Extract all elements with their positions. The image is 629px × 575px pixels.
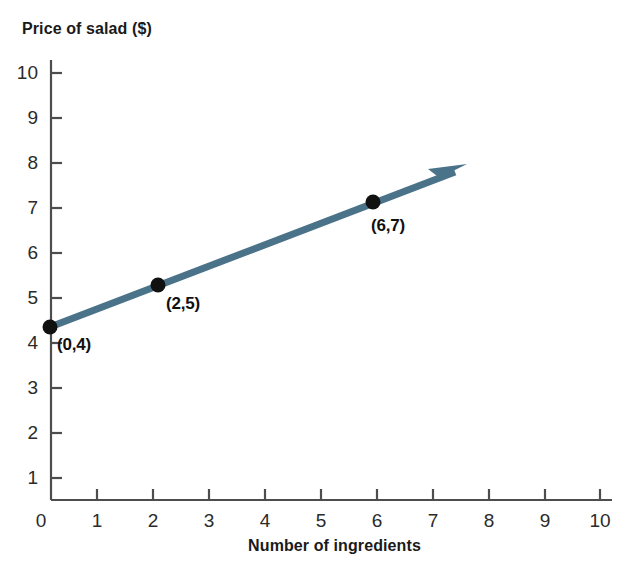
y-tick-label-7: 7 bbox=[4, 197, 38, 219]
y-tick-label-4: 4 bbox=[4, 332, 38, 354]
x-tick-label-5: 5 bbox=[301, 510, 341, 532]
x-tick-label-8: 8 bbox=[469, 510, 509, 532]
x-tick-label-6: 6 bbox=[357, 510, 397, 532]
x-tick-label-1: 1 bbox=[77, 510, 117, 532]
arrow-head-icon bbox=[425, 164, 467, 185]
x-tick-marks bbox=[97, 489, 600, 500]
x-tick-label-3: 3 bbox=[189, 510, 229, 532]
trend-line bbox=[50, 172, 455, 327]
x-tick-label-4: 4 bbox=[245, 510, 285, 532]
x-tick-label-9: 9 bbox=[525, 510, 565, 532]
point-annotation-0-4: (0,4) bbox=[57, 335, 91, 355]
x-tick-label-7: 7 bbox=[413, 510, 453, 532]
axis-lines bbox=[51, 60, 612, 500]
chart-figure: Price of salad ($) bbox=[0, 0, 629, 575]
y-tick-label-1: 1 bbox=[4, 467, 38, 489]
plot-area bbox=[0, 0, 629, 575]
data-point-0-4 bbox=[43, 320, 58, 335]
y-tick-label-9: 9 bbox=[4, 107, 38, 129]
y-tick-label-3: 3 bbox=[4, 377, 38, 399]
data-point-6-7 bbox=[366, 195, 381, 210]
x-tick-label-0: 0 bbox=[21, 510, 61, 532]
y-tick-label-2: 2 bbox=[4, 422, 38, 444]
x-tick-label-10: 10 bbox=[580, 510, 620, 532]
y-tick-label-5: 5 bbox=[4, 287, 38, 309]
data-line-series bbox=[50, 164, 467, 327]
y-tick-marks bbox=[51, 73, 62, 478]
data-point-2-5 bbox=[151, 278, 166, 293]
point-annotation-2-5: (2,5) bbox=[166, 294, 200, 314]
y-tick-label-8: 8 bbox=[4, 152, 38, 174]
x-axis-title: Number of ingredients bbox=[0, 537, 629, 555]
y-tick-label-10: 10 bbox=[4, 62, 38, 84]
y-tick-label-6: 6 bbox=[4, 242, 38, 264]
point-annotation-6-7: (6,7) bbox=[371, 216, 405, 236]
x-tick-label-2: 2 bbox=[133, 510, 173, 532]
